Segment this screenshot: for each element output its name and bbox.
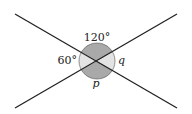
label-right-q: q (118, 54, 125, 67)
label-top-angle: 120° (84, 31, 111, 44)
label-left-angle: 60° (58, 54, 78, 67)
label-bottom-p: p (92, 77, 99, 90)
diagram-svg: 120° 60° q p (0, 0, 192, 114)
intersecting-lines-diagram: 120° 60° q p (0, 0, 192, 114)
